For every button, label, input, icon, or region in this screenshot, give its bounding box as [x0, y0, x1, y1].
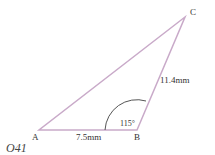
angle-label-b: 115° [120, 119, 135, 128]
vertex-label-a: A [32, 132, 39, 142]
vertex-label-c: C [190, 7, 196, 17]
side-label-ab: 7.5mm [76, 132, 101, 142]
triangle-abc [39, 17, 185, 130]
side-label-bc: 11.4mm [160, 75, 189, 85]
question-id: O41 [6, 141, 27, 155]
triangle-diagram: A B C 7.5mm 11.4mm 115° O41 [0, 0, 215, 155]
vertex-label-b: B [134, 132, 140, 142]
